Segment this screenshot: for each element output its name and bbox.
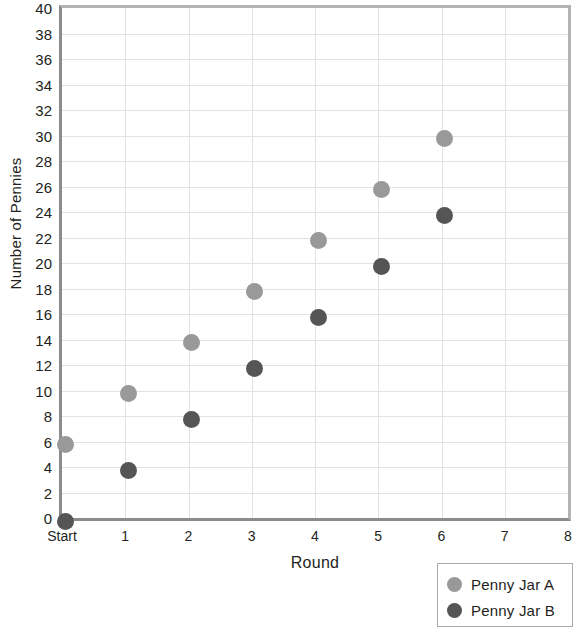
gridline-vertical xyxy=(442,8,443,518)
gridline-horizontal xyxy=(62,187,568,188)
legend-item[interactable]: Penny Jar B xyxy=(447,598,572,622)
data-point xyxy=(310,309,327,326)
gridline-horizontal xyxy=(62,110,568,111)
data-point xyxy=(310,232,327,249)
legend-marker-icon xyxy=(447,603,462,618)
gridline-horizontal xyxy=(62,493,568,494)
x-axis-tick-label: 5 xyxy=(343,529,413,543)
gridline-horizontal xyxy=(62,238,568,239)
gridline-horizontal xyxy=(62,314,568,315)
legend-item[interactable]: Penny Jar A xyxy=(447,572,572,596)
gridline-vertical xyxy=(378,8,379,518)
x-axis-tick-label: Start xyxy=(27,529,97,543)
scatter-chart: Number of Pennies 0246810121416182022242… xyxy=(0,0,580,632)
data-point xyxy=(120,385,137,402)
legend-item-label: Penny Jar B xyxy=(471,602,555,619)
gridline-vertical xyxy=(315,8,316,518)
data-point xyxy=(436,130,453,147)
gridline-horizontal xyxy=(62,59,568,60)
gridline-horizontal xyxy=(62,34,568,35)
plot-area xyxy=(59,5,571,521)
gridline-vertical xyxy=(125,8,126,518)
data-point xyxy=(57,436,74,453)
x-axis-tick-label: 8 xyxy=(533,529,580,543)
data-points xyxy=(62,8,568,518)
x-axis-tick-label: 4 xyxy=(280,529,350,543)
gridline-horizontal xyxy=(62,365,568,366)
legend-item-label: Penny Jar A xyxy=(471,576,554,593)
data-point xyxy=(436,207,453,224)
data-point xyxy=(120,462,137,479)
legend: Penny Jar APenny Jar B xyxy=(437,563,573,627)
gridline-horizontal xyxy=(62,212,568,213)
gridline-horizontal xyxy=(62,391,568,392)
gridline-horizontal xyxy=(62,263,568,264)
data-point xyxy=(246,283,263,300)
gridlines xyxy=(62,8,568,518)
gridline-vertical xyxy=(252,8,253,518)
gridline-horizontal xyxy=(62,442,568,443)
data-point xyxy=(246,360,263,377)
gridline-horizontal xyxy=(62,340,568,341)
gridline-vertical xyxy=(505,8,506,518)
gridline-horizontal xyxy=(62,85,568,86)
x-axis-tick-label: 6 xyxy=(407,529,477,543)
x-axis-tick-label: 7 xyxy=(470,529,540,543)
gridline-horizontal xyxy=(62,467,568,468)
gridline-horizontal xyxy=(62,289,568,290)
x-axis-tick-label: 2 xyxy=(154,529,224,543)
gridline-horizontal xyxy=(62,161,568,162)
data-point xyxy=(373,181,390,198)
gridline-horizontal xyxy=(62,136,568,137)
legend-marker-icon xyxy=(447,577,462,592)
data-point xyxy=(373,258,390,275)
x-axis-tick-label: 1 xyxy=(90,529,160,543)
data-point xyxy=(183,411,200,428)
data-point xyxy=(183,334,200,351)
x-axis-tick-label: 3 xyxy=(217,529,287,543)
gridline-horizontal xyxy=(62,416,568,417)
gridline-vertical xyxy=(189,8,190,518)
